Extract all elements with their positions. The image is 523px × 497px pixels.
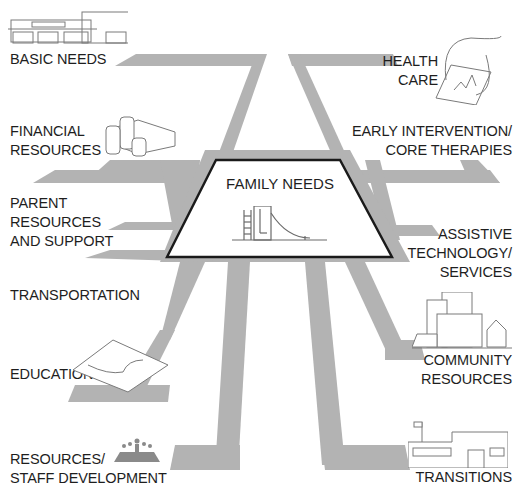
playground-slide-icon [232, 206, 327, 244]
label-early-intervention: EARLY INTERVENTION/CORE THERAPIES [352, 122, 512, 160]
label-transitions: TRANSITIONS [416, 468, 512, 487]
coin-stacks-icon [100, 112, 180, 158]
open-book-icon [68, 330, 168, 395]
label-community-resources: COMMUNITYRESOURCES [421, 351, 512, 389]
road-left-trunk [218, 54, 267, 155]
center-title: FAMILY NEEDS [205, 175, 355, 192]
label-assistive-technology: ASSISTIVETECHNOLOGY/SERVICES [408, 225, 512, 282]
meeting-group-icon [112, 438, 162, 463]
label-basic-needs: BASIC NEEDS [10, 50, 106, 69]
storefront-building-icon [8, 11, 128, 46]
label-transportation: TRANSPORTATION [10, 286, 140, 305]
family-needs-diagram: FAMILY NEEDS BASIC NEEDS FINANCIALRESOUR… [0, 0, 523, 497]
label-parent-resources: PARENTRESOURCESAND SUPPORT [10, 194, 113, 251]
road-resources-staff [215, 262, 250, 470]
stethoscope-clipboard-icon [326, 30, 506, 105]
school-building-icon [408, 420, 508, 468]
road-transitions [305, 262, 345, 465]
label-financial-resources: FINANCIALRESOURCES [10, 122, 101, 160]
city-buildings-icon [412, 292, 512, 350]
